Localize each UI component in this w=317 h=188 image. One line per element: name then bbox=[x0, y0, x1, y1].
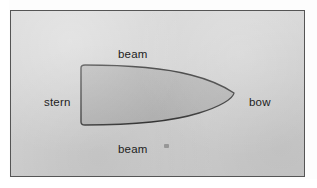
scanned-figure: beam stern bow beam bbox=[0, 0, 317, 188]
label-beam-bottom: beam bbox=[118, 144, 148, 156]
figure-frame: beam stern bow beam bbox=[10, 10, 305, 177]
scan-speck bbox=[164, 144, 169, 148]
hull-outline-path bbox=[81, 65, 234, 125]
page-edge-left bbox=[0, 0, 9, 188]
hull-diagram bbox=[11, 11, 305, 177]
page-edge-bottom bbox=[0, 179, 317, 188]
label-bow: bow bbox=[249, 97, 271, 109]
label-stern: stern bbox=[44, 97, 71, 109]
label-beam-top: beam bbox=[118, 49, 148, 61]
